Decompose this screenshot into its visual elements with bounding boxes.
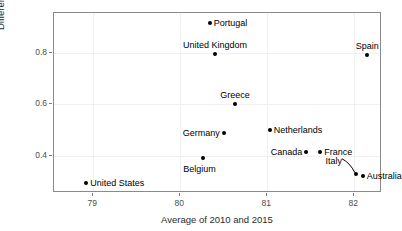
data-point [233, 102, 237, 106]
data-point [365, 53, 369, 57]
data-point [361, 174, 365, 178]
data-point [318, 150, 322, 154]
point-label: Belgium [183, 164, 216, 174]
point-label: Greece [220, 90, 250, 100]
y-tick-mark [49, 103, 52, 104]
gridline-x [267, 13, 268, 191]
data-point [304, 150, 308, 154]
data-point [354, 172, 358, 176]
data-point [268, 128, 272, 132]
x-tick-label: 81 [261, 198, 270, 208]
x-tick-mark [266, 193, 267, 196]
gridline-y [54, 53, 380, 54]
gridline-x [93, 13, 94, 191]
data-point [222, 131, 226, 135]
data-point [201, 156, 205, 160]
x-axis-title: Average of 2010 and 2015 [161, 214, 273, 225]
point-label: Portugal [214, 18, 248, 28]
x-tick-mark [179, 193, 180, 196]
y-axis-title: Difference between 2015 and 2010 [0, 0, 6, 30]
y-tick-label: 0.8 [35, 47, 47, 57]
x-tick-label: 82 [348, 198, 357, 208]
plot-panel: PortugalUnited KingdomSpainGreeceGermany… [53, 12, 381, 192]
point-label: Netherlands [274, 125, 323, 135]
point-label: Germany [183, 128, 220, 138]
point-label: United States [90, 178, 144, 188]
y-tick-mark [49, 52, 52, 53]
y-tick-mark [49, 155, 52, 156]
gridline-y [54, 104, 380, 105]
x-tick-label: 80 [174, 198, 183, 208]
x-tick-mark [353, 193, 354, 196]
x-tick-mark [92, 193, 93, 196]
point-label: Canada [271, 147, 303, 157]
data-point [84, 181, 88, 185]
point-label: Italy [325, 156, 342, 166]
x-tick-label: 79 [87, 198, 96, 208]
data-point [208, 21, 212, 25]
point-label: United Kingdom [183, 40, 247, 50]
data-point [213, 52, 217, 56]
gridline-x [180, 13, 181, 191]
point-label: Spain [356, 41, 379, 51]
y-tick-label: 0.4 [35, 150, 47, 160]
y-tick-label: 0.6 [35, 98, 47, 108]
point-label: Australia [367, 171, 402, 181]
